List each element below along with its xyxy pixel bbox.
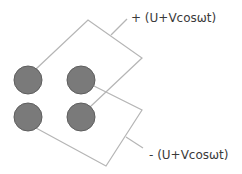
- negative-voltage-label: - (U+Vcosωt): [149, 148, 229, 162]
- electrode-bottom-left: [14, 103, 42, 131]
- electrode-top-left: [14, 66, 42, 94]
- positive-voltage-label: + (U+Vcosωt): [131, 11, 216, 25]
- electrode-top-right: [67, 66, 95, 94]
- negative-lead: [126, 137, 143, 148]
- electrode-bottom-right: [67, 103, 95, 131]
- positive-wire: [36, 20, 142, 107]
- positive-lead: [111, 19, 127, 35]
